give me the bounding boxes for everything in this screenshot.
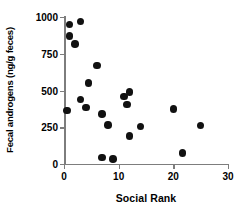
scatter-chart-figure: Fecal androgens (ng/g feces) 02505007501… (0, 0, 244, 214)
y-axis-tick (60, 127, 65, 128)
data-point (98, 110, 106, 118)
plot-area: 025050075010000102030 (64, 17, 228, 164)
data-point (126, 88, 134, 96)
x-axis-tick-label: 20 (168, 171, 179, 182)
y-axis-tick (60, 91, 65, 92)
data-point (179, 149, 187, 157)
x-axis-tick-label: 30 (222, 171, 233, 182)
data-point (137, 123, 145, 131)
y-axis-tick-label: 250 (41, 122, 58, 133)
y-axis-tick-label: 750 (41, 48, 58, 59)
y-axis-tick-label: 0 (52, 159, 58, 170)
data-point (93, 62, 101, 70)
data-point (71, 40, 79, 48)
data-point (170, 105, 178, 113)
data-point (104, 121, 112, 129)
data-point (126, 132, 134, 140)
y-axis-tick-label: 500 (41, 85, 58, 96)
data-point (197, 122, 205, 130)
data-point (63, 107, 71, 115)
x-axis-tick (119, 164, 120, 169)
data-point (66, 21, 74, 29)
data-point (77, 18, 85, 26)
y-axis-title: Fecal androgens (ng/g feces) (2, 4, 18, 176)
x-axis-tick-label: 10 (113, 171, 124, 182)
y-axis-tick (60, 17, 65, 18)
x-axis-tick (64, 164, 65, 169)
x-axis-tick-label: 0 (61, 171, 67, 182)
data-point (85, 79, 93, 87)
y-axis-tick (60, 54, 65, 55)
data-point (123, 101, 131, 109)
data-point (98, 154, 106, 162)
x-axis-title: Social Rank (64, 192, 228, 204)
data-point (82, 104, 90, 112)
data-point (77, 96, 85, 104)
data-point (109, 155, 117, 163)
x-axis-tick (173, 164, 174, 169)
data-point (66, 32, 74, 40)
x-axis-tick (228, 164, 229, 169)
y-axis-tick-label: 1000 (36, 12, 58, 23)
